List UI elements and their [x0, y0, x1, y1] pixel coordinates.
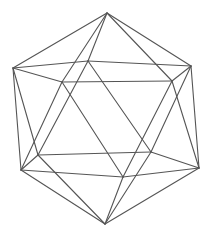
icosahedron-wireframe: [0, 0, 211, 237]
edge-upper-right-to-lower-outer-right: [191, 66, 199, 168]
edge-bottom-to-lower-mid-left: [38, 155, 105, 224]
edge-top-to-upper-mid-left: [62, 13, 107, 82]
edge-lower-outer-right-to-lower-front: [123, 168, 199, 177]
edge-upper-mid-left-to-lower-outer-left: [21, 82, 62, 170]
edge-top-to-upper-right: [107, 13, 191, 66]
edge-upper-right-to-upper-mid-right: [172, 66, 191, 81]
edge-upper-back-to-lower-mid-left: [38, 61, 88, 155]
edge-upper-mid-left-to-upper-left: [13, 68, 62, 82]
edge-top-to-upper-left: [13, 13, 107, 68]
edge-upper-mid-right-to-lower-front: [123, 81, 172, 177]
edge-upper-back-to-upper-right: [88, 61, 191, 66]
edge-upper-back-to-lower-mid-right: [88, 61, 151, 152]
edge-upper-mid-right-to-lower-outer-right: [172, 81, 199, 168]
edge-lower-front-to-lower-outer-left: [21, 170, 123, 177]
edge-lower-outer-left-to-lower-mid-left: [21, 155, 38, 170]
edge-bottom-to-lower-outer-left: [21, 170, 105, 224]
edge-lower-mid-right-to-lower-outer-right: [151, 152, 199, 168]
edge-top-to-upper-mid-right: [107, 13, 172, 81]
edge-upper-right-to-lower-mid-right: [151, 66, 191, 152]
edge-upper-mid-right-to-upper-mid-left: [62, 81, 172, 82]
edge-upper-mid-left-to-lower-front: [62, 82, 123, 177]
edge-bottom-to-lower-mid-right: [105, 152, 151, 224]
